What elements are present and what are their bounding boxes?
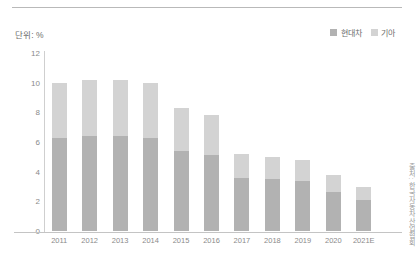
source-note: 출처: 한국자동차산업협회 [406, 163, 416, 247]
y-axis-tick-label: 6 [14, 138, 40, 147]
bar-column [356, 187, 371, 231]
unit-label: 단위: % [15, 28, 44, 40]
legend-item: 현대차 [330, 27, 362, 38]
chart-figure: 단위: % 현대차기아 024681012 출처: 한국자동차산업협회 2011… [0, 0, 417, 277]
bar-column [52, 83, 67, 231]
bar-segment-kia [265, 157, 280, 179]
bar-column [234, 154, 249, 231]
bar-segment-kia [356, 187, 371, 200]
legend-label: 현대차 [341, 27, 362, 38]
bar-column [143, 83, 158, 231]
y-axis-ticks: 024681012 [10, 53, 40, 231]
bar-segment-hyundai [234, 178, 249, 231]
bar-segment-kia [234, 154, 249, 178]
bar-segment-hyundai [295, 181, 310, 231]
legend-swatch-icon [330, 29, 337, 36]
bar-segment-hyundai [204, 155, 219, 231]
legend-swatch-icon [371, 29, 378, 36]
x-axis-tick-label: 2016 [195, 236, 229, 245]
x-axis-tick-label: 2012 [73, 236, 107, 245]
bar-segment-kia [52, 83, 67, 138]
bar-segment-hyundai [82, 136, 97, 231]
x-axis-tick-label: 2021E [347, 236, 381, 245]
bar-segment-hyundai [265, 179, 280, 231]
bar-column [295, 160, 310, 231]
plot-area [44, 53, 379, 231]
bar-segment-hyundai [143, 138, 158, 231]
bar-segment-kia [174, 108, 189, 151]
bar-segment-hyundai [174, 151, 189, 231]
bar-segment-kia [113, 80, 128, 136]
bar-segment-kia [82, 80, 97, 136]
legend-label: 기아 [381, 27, 395, 38]
x-axis-tick-label: 2017 [225, 236, 259, 245]
x-axis-tick-label: 2019 [286, 236, 320, 245]
x-axis-line [14, 232, 402, 233]
y-axis-tick-label: 4 [14, 167, 40, 176]
chart-legend: 현대차기아 [330, 27, 395, 38]
bar-column [265, 157, 280, 231]
bar-segment-kia [143, 83, 158, 138]
y-axis-tick-label: 2 [14, 197, 40, 206]
legend-item: 기아 [371, 27, 396, 38]
bar-column [326, 175, 341, 231]
x-axis-tick-label: 2014 [134, 236, 168, 245]
bar-segment-hyundai [113, 136, 128, 231]
x-axis-tick-label: 2011 [42, 236, 76, 245]
bar-column [113, 80, 128, 231]
x-axis-tick-label: 2018 [255, 236, 289, 245]
bar-column [174, 108, 189, 231]
bar-segment-kia [295, 160, 310, 181]
bar-column [204, 115, 219, 231]
bar-segment-hyundai [356, 200, 371, 231]
y-axis-tick-label: 10 [14, 78, 40, 87]
bar-segment-kia [326, 175, 341, 193]
y-axis-tick-label: 8 [14, 108, 40, 117]
y-axis-tick-label: 12 [14, 49, 40, 58]
x-axis-tick-label: 2013 [103, 236, 137, 245]
bar-segment-hyundai [52, 138, 67, 231]
bar-column [82, 80, 97, 231]
bar-segment-kia [204, 115, 219, 155]
top-divider-rule [12, 7, 402, 8]
x-axis-tick-label: 2020 [316, 236, 350, 245]
bar-segment-hyundai [326, 192, 341, 231]
x-axis-tick-label: 2015 [164, 236, 198, 245]
